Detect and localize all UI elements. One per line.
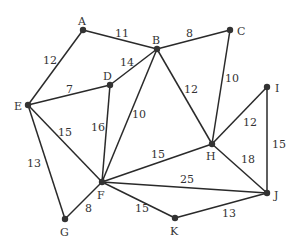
node-label: E <box>14 100 22 113</box>
node-G <box>62 216 68 222</box>
node-F <box>99 179 105 185</box>
node-label: A <box>77 15 87 28</box>
edge-weight-label: 15 <box>135 202 149 215</box>
edge-weight-label: 14 <box>120 56 134 69</box>
edge-weight-label: 13 <box>222 207 236 220</box>
node-label: F <box>97 189 105 202</box>
edge-B-C <box>157 30 230 49</box>
edge-weight-label: 12 <box>184 83 198 96</box>
edge-E-F <box>28 105 102 182</box>
edge-weight-label: 15 <box>58 126 72 139</box>
edge-weight-label: 10 <box>225 72 239 85</box>
edge-weight-label: 12 <box>43 54 57 67</box>
edge-weight-label: 13 <box>27 157 41 170</box>
edge-C-H <box>212 30 230 144</box>
edge-weight-label: 8 <box>186 27 193 40</box>
node-K <box>172 215 178 221</box>
edge-weight-label: 16 <box>91 121 105 134</box>
edge-weight-label: 11 <box>115 27 129 40</box>
node-I <box>264 84 270 90</box>
edge-K-J <box>175 193 267 218</box>
edge-weight-label: 18 <box>241 153 255 166</box>
node-label: D <box>103 70 112 83</box>
edge-weight-label: 7 <box>66 83 73 96</box>
edge-weight-label: 15 <box>272 138 286 151</box>
node-J <box>264 190 270 196</box>
node-label: G <box>60 226 69 239</box>
node-label: B <box>152 34 160 47</box>
node-E <box>25 102 31 108</box>
node-H <box>209 141 215 147</box>
node-C <box>227 27 233 33</box>
graph-diagram: 11128141012107161513815251512181513 ABCD… <box>0 0 295 245</box>
edges-layer <box>28 30 267 219</box>
node-label: K <box>170 225 179 238</box>
node-label: J <box>273 189 278 202</box>
node-label: H <box>206 150 216 163</box>
node-label: I <box>275 82 279 95</box>
edge-weight-label: 12 <box>243 116 257 129</box>
edge-weight-label: 15 <box>151 148 165 161</box>
edge-weight-label: 10 <box>132 108 146 121</box>
node-label: C <box>237 25 245 38</box>
edge-weight-label: 25 <box>180 173 194 186</box>
edge-B-H <box>157 49 212 144</box>
edge-H-J <box>212 144 267 193</box>
edge-weight-label: 8 <box>85 202 92 215</box>
